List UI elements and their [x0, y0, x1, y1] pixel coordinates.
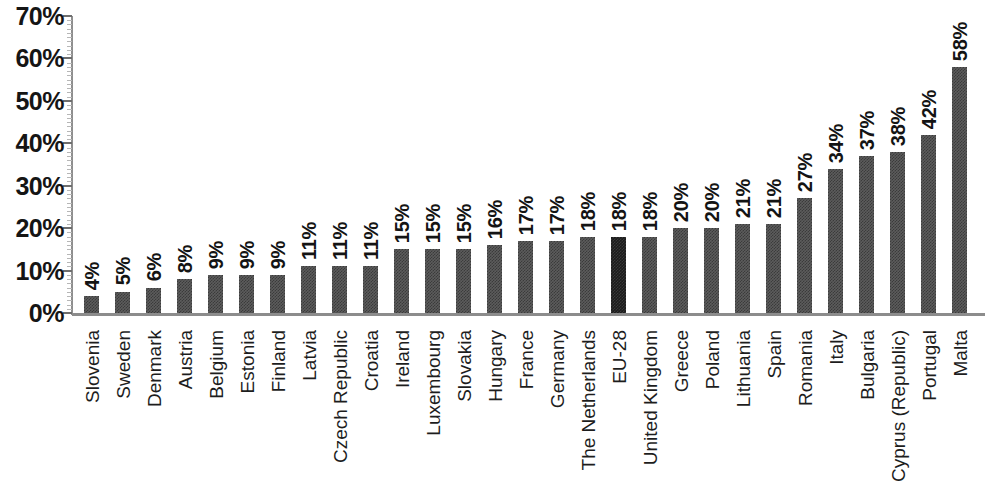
bar[interactable]	[704, 228, 719, 313]
bar-group[interactable]: 11%Latvia	[293, 0, 324, 503]
bar[interactable]	[208, 275, 223, 313]
bar[interactable]	[487, 245, 502, 313]
bar-group[interactable]: 21%Lithuania	[727, 0, 758, 503]
bar[interactable]	[84, 296, 99, 313]
bar[interactable]	[425, 249, 440, 313]
y-axis-tick-label: 50%	[15, 86, 64, 115]
bar-group[interactable]: 17%France	[510, 0, 541, 503]
x-axis-category-label: Belgium	[206, 330, 225, 399]
bar-group[interactable]: 20%Poland	[696, 0, 727, 503]
bar[interactable]	[890, 152, 905, 313]
x-axis-category-label: Luxembourg	[423, 330, 442, 436]
x-axis-category-label: Spain	[764, 330, 783, 379]
bar[interactable]	[270, 275, 285, 313]
bar-group[interactable]: 15%Luxembourg	[417, 0, 448, 503]
x-axis-category-label: Austria	[175, 330, 194, 389]
bar[interactable]	[332, 266, 347, 313]
bar[interactable]	[301, 266, 316, 313]
x-axis-category-label: Estonia	[237, 330, 256, 393]
bar-group[interactable]: 37%Bulgaria	[851, 0, 882, 503]
bar-group[interactable]: 15%Slovakia	[448, 0, 479, 503]
bar[interactable]	[363, 266, 378, 313]
bar[interactable]	[115, 292, 130, 313]
x-axis-category-label: Greece	[671, 330, 690, 392]
bar-group[interactable]: 9%Belgium	[200, 0, 231, 503]
x-axis-category-label: The Netherlands	[578, 330, 597, 470]
x-axis-category-label: Ireland	[392, 330, 411, 388]
bar-group[interactable]: 27%Romania	[789, 0, 820, 503]
bar-value-label: 16%	[485, 200, 505, 239]
y-axis-tick-label: 30%	[15, 171, 64, 200]
y-axis-tick-label: 20%	[15, 214, 64, 243]
bar-value-label: 15%	[454, 204, 474, 243]
x-axis-category-label: Italy	[826, 330, 845, 365]
bar-value-label: 20%	[702, 183, 722, 222]
bar-value-label: 5%	[113, 257, 133, 285]
bar-value-label: 9%	[268, 241, 288, 269]
bar[interactable]	[456, 249, 471, 313]
bar[interactable]	[239, 275, 254, 313]
bar[interactable]	[146, 288, 161, 313]
bar-chart: 0%10%20%30%40%50%60%70% 4%Slovenia5%Swed…	[0, 0, 985, 503]
bar-value-label: 8%	[175, 245, 195, 273]
bar-group[interactable]: 8%Austria	[169, 0, 200, 503]
bar-group[interactable]: 58%Malta	[944, 0, 975, 503]
bar[interactable]	[518, 241, 533, 313]
bar-value-label: 58%	[950, 22, 970, 61]
y-axis-tick-label: 10%	[15, 256, 64, 285]
bar-group[interactable]: 16%Hungary	[479, 0, 510, 503]
x-axis-category-label: Hungary	[485, 330, 504, 402]
x-axis-category-label: Cyprus (Republic)	[888, 330, 907, 482]
bar-group[interactable]: 34%Italy	[820, 0, 851, 503]
bar-group[interactable]: 9%Estonia	[231, 0, 262, 503]
y-axis: 0%10%20%30%40%50%60%70%	[0, 0, 72, 503]
bar-value-label: 4%	[82, 262, 102, 290]
y-axis-tick-label: 70%	[15, 2, 64, 31]
x-axis-category-label: Slovenia	[82, 330, 101, 403]
bar-group[interactable]: 18%The Netherlands	[572, 0, 603, 503]
bar[interactable]	[828, 169, 843, 313]
bar-value-label: 6%	[144, 253, 164, 281]
bar[interactable]	[735, 224, 750, 313]
bar[interactable]	[673, 228, 688, 313]
bar[interactable]	[611, 237, 626, 313]
bar-value-label: 15%	[392, 204, 412, 243]
bar-group[interactable]: 42%Portugal	[913, 0, 944, 503]
bar[interactable]	[642, 237, 657, 313]
bar-value-label: 42%	[919, 90, 939, 129]
bar-group[interactable]: 6%Denmark	[138, 0, 169, 503]
bar-group[interactable]: 20%Greece	[665, 0, 696, 503]
bar[interactable]	[952, 67, 967, 313]
bar[interactable]	[177, 279, 192, 313]
bar-group[interactable]: 17%Germany	[541, 0, 572, 503]
y-axis-tick-label: 40%	[15, 129, 64, 158]
bar[interactable]	[766, 224, 781, 313]
bar-value-label: 11%	[299, 222, 319, 260]
bar[interactable]	[549, 241, 564, 313]
x-axis-category-label: France	[516, 330, 535, 389]
bar-value-label: 27%	[795, 153, 815, 192]
bar-group[interactable]: 18%United Kingdom	[634, 0, 665, 503]
bar-group[interactable]: 11%Czech Republic	[324, 0, 355, 503]
bar[interactable]	[394, 249, 409, 313]
bar-value-label: 15%	[423, 204, 443, 243]
x-axis-category-label: Germany	[547, 330, 566, 408]
bar[interactable]	[859, 156, 874, 313]
bar-group[interactable]: 9%Finland	[262, 0, 293, 503]
bar-value-label: 17%	[547, 196, 567, 235]
bar[interactable]	[580, 237, 595, 313]
bar-group[interactable]: 38%Cyprus (Republic)	[882, 0, 913, 503]
bar-value-label: 38%	[888, 107, 908, 146]
bar-value-label: 9%	[237, 241, 257, 269]
bar[interactable]	[797, 198, 812, 313]
bar-group[interactable]: 4%Slovenia	[76, 0, 107, 503]
bar-group[interactable]: 11%Croatia	[355, 0, 386, 503]
bar-value-label: 9%	[206, 241, 226, 269]
bar-group[interactable]: 18%EU-28	[603, 0, 634, 503]
bar-group[interactable]: 15%Ireland	[386, 0, 417, 503]
bar[interactable]	[921, 135, 936, 313]
bar-group[interactable]: 5%Sweden	[107, 0, 138, 503]
x-axis-category-label: Lithuania	[733, 330, 752, 407]
bar-group[interactable]: 21%Spain	[758, 0, 789, 503]
x-axis-category-label: EU-28	[609, 330, 628, 384]
